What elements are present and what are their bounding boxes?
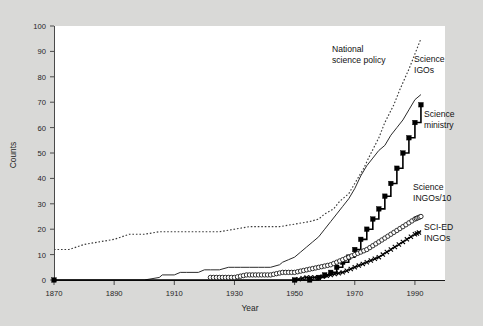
- y-tick-label: 0: [42, 276, 46, 285]
- plot-area-background: [54, 26, 445, 280]
- x-tick-label: 1930: [226, 289, 243, 298]
- data-point-marker: [395, 166, 400, 171]
- y-tick-label: 30: [38, 200, 46, 209]
- annotation-sci-ed-ingos: SCI-EDINGOs: [424, 222, 453, 243]
- data-point-marker: [52, 278, 57, 283]
- y-tick-label: 10: [38, 251, 46, 260]
- data-point-marker: [419, 102, 424, 107]
- x-tick-label: 1910: [166, 289, 183, 298]
- data-point-marker: [407, 135, 412, 140]
- chart-figure: 0102030405060708090100 18701890191019301…: [0, 0, 483, 326]
- y-tick-label: 80: [38, 73, 46, 82]
- y-tick-label: 100: [33, 22, 46, 31]
- x-tick-label: 1870: [46, 289, 63, 298]
- y-tick-label: 40: [38, 174, 46, 183]
- y-axis-title: Counts: [8, 142, 18, 169]
- data-point-marker: [377, 207, 382, 212]
- x-tick-label: 1890: [106, 289, 123, 298]
- data-point-marker: [383, 194, 388, 199]
- x-axis-title: Year: [242, 303, 259, 313]
- x-tick-label: 1970: [346, 289, 363, 298]
- data-point-marker: [365, 227, 370, 232]
- x-tick-label: 1950: [286, 289, 303, 298]
- data-point-marker: [358, 237, 363, 242]
- data-point-marker: [389, 181, 394, 186]
- y-tick-label: 20: [38, 225, 46, 234]
- y-tick-label: 70: [38, 98, 46, 107]
- data-point-marker: [371, 217, 376, 222]
- y-tick-label: 60: [38, 124, 46, 133]
- data-point-marker: [413, 120, 418, 125]
- y-tick-label: 90: [38, 47, 46, 56]
- y-tick-label: 50: [38, 149, 46, 158]
- x-tick-label: 1990: [406, 289, 423, 298]
- data-point-marker: [419, 214, 423, 218]
- data-point-marker: [401, 151, 406, 156]
- annotation-science-ministry: Scienceministry: [424, 109, 455, 130]
